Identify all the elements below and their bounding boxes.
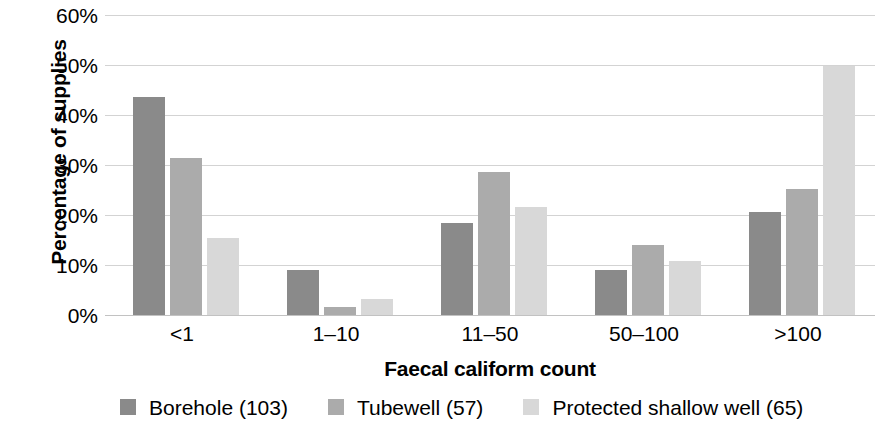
bar <box>632 245 664 316</box>
bar <box>361 299 393 315</box>
legend-label: Protected shallow well (65) <box>552 397 803 418</box>
plot-area <box>105 15 875 315</box>
bar <box>595 270 627 316</box>
bar <box>207 238 239 315</box>
y-axis-tick-label: 50% <box>12 55 98 76</box>
bar-group <box>287 15 393 315</box>
bar-group <box>133 15 239 315</box>
bar <box>823 66 855 315</box>
x-axis-tick-labels: <11–1011–5050–100>100 <box>105 322 875 352</box>
bar <box>441 223 473 315</box>
legend-swatch-icon <box>523 399 539 415</box>
bar-group <box>441 15 547 315</box>
bar-group <box>595 15 701 315</box>
legend-swatch-icon <box>328 399 344 415</box>
y-axis-tick-label: 20% <box>12 205 98 226</box>
bar <box>324 307 356 315</box>
bar <box>669 261 701 316</box>
bar <box>287 270 319 315</box>
x-axis-tick-label: <1 <box>105 322 259 346</box>
gridline <box>105 315 875 316</box>
legend-item: Protected shallow well (65) <box>523 397 803 418</box>
y-axis-tick-label: 40% <box>12 105 98 126</box>
legend-label: Tubewell (57) <box>357 397 483 418</box>
bar <box>749 212 781 315</box>
bar <box>478 172 510 315</box>
bars-layer <box>105 15 875 315</box>
x-axis-tick-label: 50–100 <box>567 322 721 346</box>
y-axis-tick-label: 10% <box>12 255 98 276</box>
x-axis-tick-label: 1–10 <box>259 322 413 346</box>
bar <box>786 189 818 315</box>
y-axis-tick-label: 0% <box>12 305 98 326</box>
x-axis-title: Faecal caliform count <box>105 357 875 381</box>
x-axis-tick-label: >100 <box>721 322 875 346</box>
legend-swatch-icon <box>120 399 136 415</box>
x-axis-tick-label: 11–50 <box>413 322 567 346</box>
bar <box>133 97 165 315</box>
bar-chart: Percentage of supplies 0%10%20%30%40%50%… <box>0 0 879 433</box>
legend-item: Tubewell (57) <box>328 397 483 418</box>
y-axis-tick-labels: 0%10%20%30%40%50%60% <box>0 0 98 433</box>
y-axis-tick-label: 30% <box>12 155 98 176</box>
bar <box>170 158 202 316</box>
y-axis-tick-label: 60% <box>12 5 98 26</box>
chart-legend: Borehole (103)Tubewell (57)Protected sha… <box>120 393 803 421</box>
legend-item: Borehole (103) <box>120 397 288 418</box>
bar-group <box>749 15 855 315</box>
legend-label: Borehole (103) <box>149 397 288 418</box>
bar <box>515 207 547 315</box>
